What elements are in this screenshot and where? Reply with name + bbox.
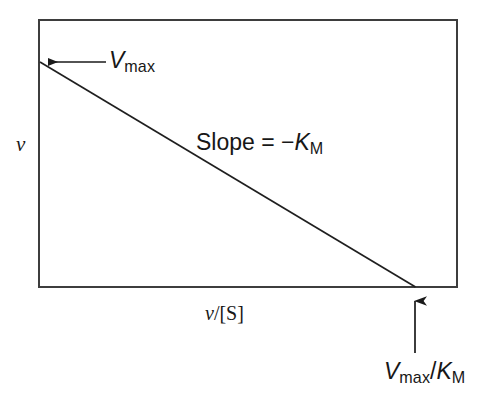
y-axis-label: ν — [16, 133, 25, 155]
eadie-hofstee-figure: ν ν/[S] Vmax Slope = −KM Vmax/KM — [0, 0, 492, 399]
slope-prefix: Slope — [196, 129, 255, 155]
slope-minus-sign: − — [281, 129, 294, 155]
x-intercept-variable-1: V — [384, 358, 399, 384]
slope-equals-sign: = — [261, 129, 274, 155]
x-axis-denominator: [S] — [219, 302, 243, 324]
x-axis-label: ν/[S] — [205, 303, 244, 323]
x-intercept-subscript-2: M — [452, 368, 466, 386]
plot-canvas — [0, 0, 492, 399]
vmax-variable: V — [109, 47, 124, 73]
x-intercept-variable-2: K — [436, 358, 451, 384]
vmax-label: Vmax — [109, 49, 155, 72]
slope-label: Slope = −KM — [196, 131, 323, 154]
y-axis-label-text: ν — [16, 132, 25, 156]
vmax-subscript: max — [124, 57, 155, 75]
x-axis-numerator: ν — [205, 302, 214, 324]
x-intercept-subscript-1: max — [399, 368, 430, 386]
slope-subscript: M — [310, 139, 324, 157]
slope-variable: K — [294, 129, 309, 155]
x-intercept-label: Vmax/KM — [384, 360, 465, 383]
eadie-hofstee-line — [40, 62, 416, 287]
